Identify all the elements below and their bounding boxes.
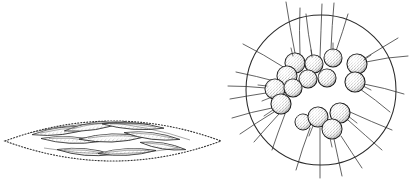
spherical-cell [345, 72, 365, 92]
figure-canvas [0, 0, 417, 184]
spherical-cell [324, 49, 342, 67]
illustration-root: Two colonial microorganism forms [0, 0, 417, 184]
spherical-cell [284, 79, 302, 97]
spherical-cell [271, 94, 291, 114]
spherical-cell [318, 69, 336, 87]
spherical-cell [322, 119, 342, 139]
spherical-cell [347, 54, 367, 74]
